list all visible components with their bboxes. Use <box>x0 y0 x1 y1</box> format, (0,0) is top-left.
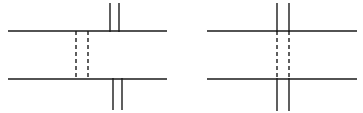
right-diagram-vertical-lines <box>277 3 289 111</box>
left-diagram-vertical-lines <box>76 3 122 110</box>
right-diagram <box>207 3 357 111</box>
figure-canvas <box>0 0 363 113</box>
right-diagram-horizontal-lines <box>207 31 357 79</box>
line-diagram-figure <box>0 0 363 113</box>
diagram-panels-group <box>8 3 357 111</box>
left-diagram <box>8 3 167 110</box>
